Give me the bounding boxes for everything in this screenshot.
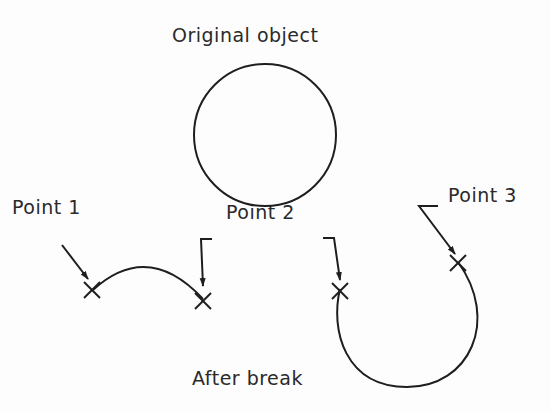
point-2-x-marker-left (195, 293, 211, 309)
broken-arc-right (337, 262, 477, 387)
point-1-leader-arrow (62, 245, 88, 279)
break-command-diagram: Original object Point 1 Point 2 Point 3 … (0, 0, 551, 412)
point-2-x-marker-right (332, 283, 348, 299)
diagram-graphics (0, 0, 551, 412)
original-circle (194, 64, 336, 206)
point-2-leader-arrow-right (323, 238, 340, 280)
point-2-leader-arrow-left (201, 239, 212, 286)
point-1-x-marker (84, 282, 100, 298)
point-3-x-marker (450, 255, 466, 271)
broken-arc-left (93, 267, 203, 299)
point-3-leader-arrow (419, 206, 455, 254)
